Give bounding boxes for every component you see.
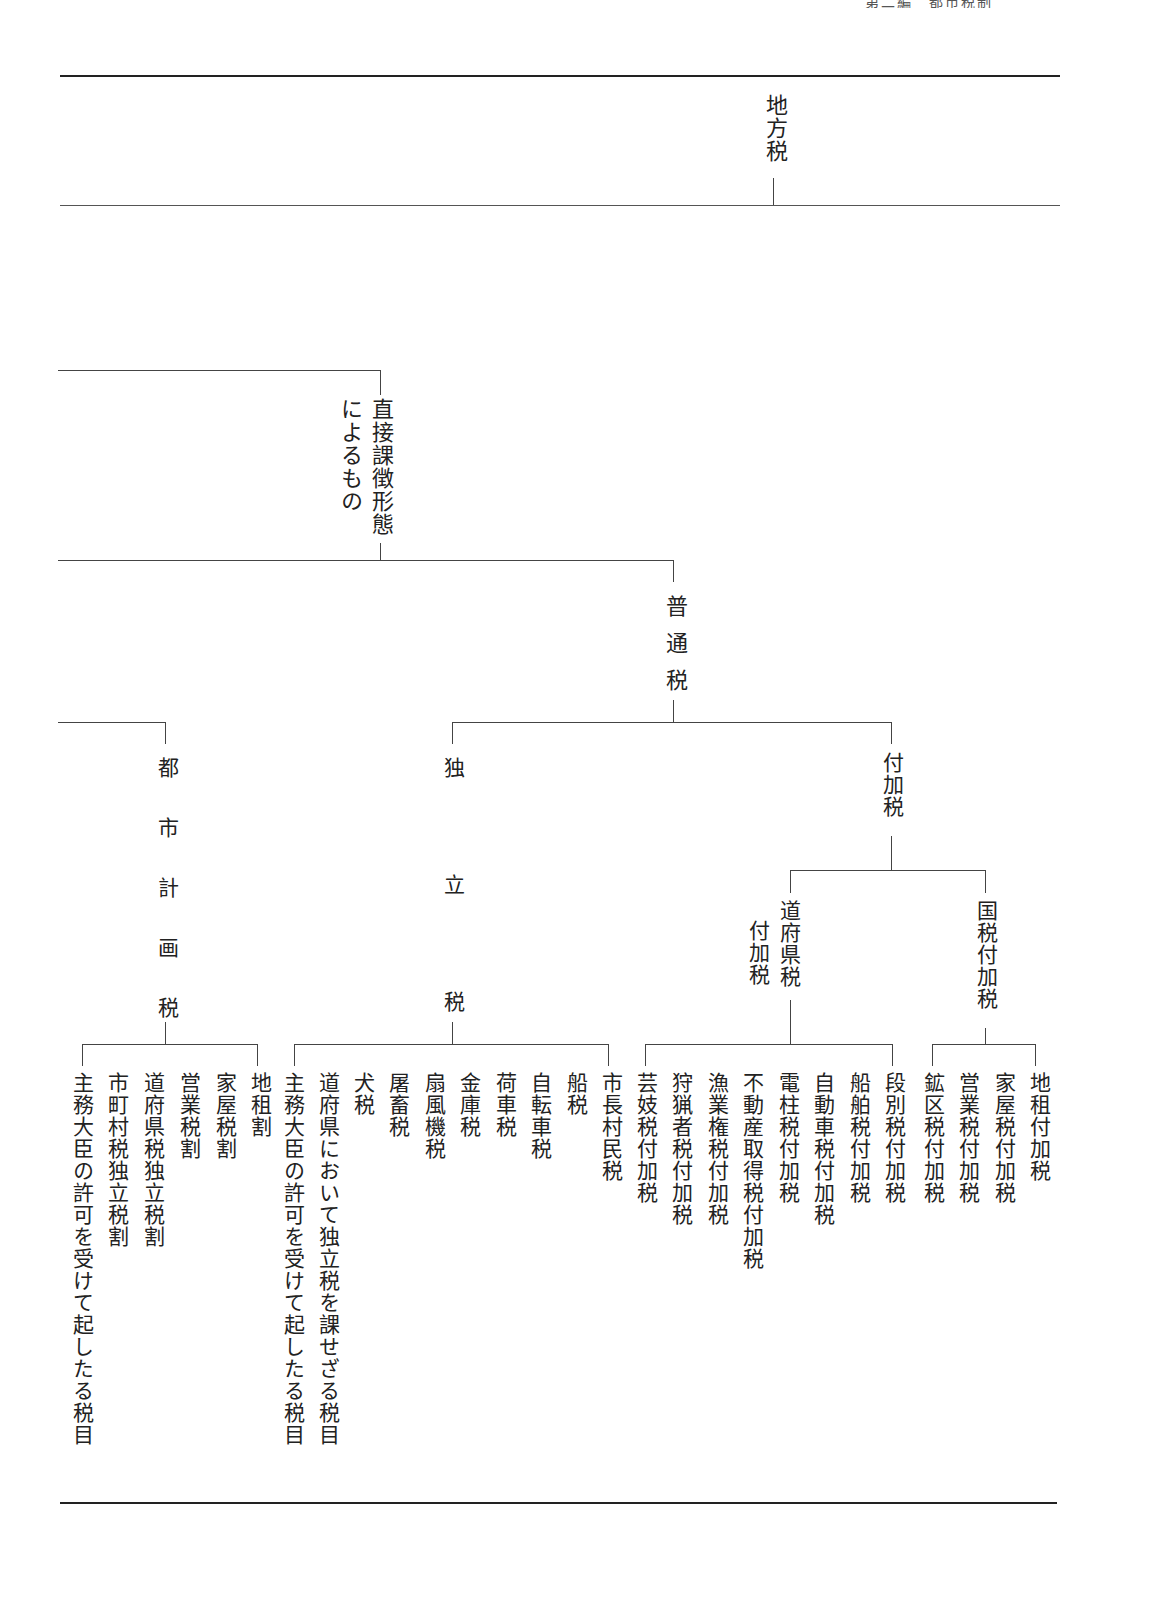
toshi-drop bbox=[165, 722, 166, 744]
toshi-stem bbox=[165, 1022, 166, 1044]
level2-drop bbox=[673, 560, 674, 582]
level1-top-drop bbox=[380, 370, 381, 395]
dofuken-items-drop-right bbox=[892, 1044, 893, 1066]
toshi-items-drop-left bbox=[82, 1044, 83, 1066]
kokuzei-item-koku: 鉱区税付加税 bbox=[916, 1072, 950, 1204]
level1-bottom-stem bbox=[380, 543, 381, 561]
level1-label-main: 直接課徴形態 bbox=[364, 398, 396, 536]
dokuritsu-label: 独立税 bbox=[441, 757, 465, 1108]
dofuken-item-fudosan: 不動産取得税付加税 bbox=[735, 1072, 769, 1270]
toshi-item-eigyozeiwari: 営業税割 bbox=[172, 1072, 206, 1160]
dofuken-items-drop-left bbox=[645, 1044, 646, 1066]
dofuken-item-geigi: 芸妓税付加税 bbox=[629, 1072, 663, 1204]
kokuzei-drop bbox=[985, 870, 986, 893]
kokuzei-label: 国税付加税 bbox=[972, 900, 1000, 1010]
running-header: 第二編 都市税制 bbox=[865, 0, 1075, 8]
level1-label-sub: によるもの bbox=[333, 398, 365, 513]
dokuritsu-item-jitenshazei: 自転車税 bbox=[523, 1072, 557, 1160]
dofuken-item-denchu: 電柱税付加税 bbox=[771, 1072, 805, 1204]
root-baseline bbox=[60, 205, 1060, 206]
dokuritsu-drop bbox=[452, 722, 453, 744]
toshi-item-shumu: 主務大臣の許可を受けて起したる税目 bbox=[65, 1072, 99, 1446]
fukazei-sub-bar bbox=[790, 870, 986, 871]
dofuken-label-main: 道府県税 bbox=[775, 900, 803, 988]
dokuritsu-items-drop-right bbox=[608, 1044, 609, 1066]
level1-top-bar bbox=[58, 370, 380, 371]
dofuken-drop bbox=[790, 870, 791, 893]
fukazei-drop bbox=[891, 722, 892, 744]
toshi-bar bbox=[58, 722, 166, 723]
level1-bottom-bar bbox=[58, 560, 674, 561]
dokuritsu-item-shumu: 主務大臣の許可を受けて起したる税目 bbox=[276, 1072, 310, 1446]
dofuken-item-senpaku: 船舶税付加税 bbox=[842, 1072, 876, 1204]
dofuken-label-sub: 付加税 bbox=[744, 920, 772, 986]
dokuritsu-items-drop-left bbox=[294, 1044, 295, 1066]
dokuritsu-item-senpuki: 扇風機税 bbox=[417, 1072, 451, 1160]
dofuken-item-jidosha: 自動車税付加税 bbox=[806, 1072, 840, 1226]
kokuzei-items-drop-right bbox=[1035, 1044, 1036, 1066]
root-connector bbox=[773, 178, 774, 205]
level2-label: 普通税 bbox=[661, 595, 687, 706]
dokuritsu-item-inuzei: 犬税 bbox=[346, 1072, 380, 1116]
toshi-keikaku-label: 都市計画税 bbox=[155, 757, 179, 1057]
dokuritsu-item-funezei: 船税 bbox=[559, 1072, 593, 1116]
dofuken-items-bar bbox=[645, 1044, 893, 1045]
kokuzei-item-kaoku: 家屋税付加税 bbox=[987, 1072, 1021, 1204]
dokuritsu-item-tochiku: 屠畜税 bbox=[381, 1072, 415, 1138]
kokuzei-items-drop-left bbox=[932, 1044, 933, 1066]
level2-stem bbox=[673, 700, 674, 722]
dofuken-item-shuryo: 狩猟者税付加税 bbox=[664, 1072, 698, 1226]
fukazei-label: 付加税 bbox=[879, 752, 905, 818]
kokuzei-item-eigyo: 営業税付加税 bbox=[951, 1072, 985, 1204]
dofuken-item-danbetsu: 段別税付加税 bbox=[877, 1072, 911, 1204]
kokuzei-stem bbox=[985, 1028, 986, 1045]
root-node-label: 地方税 bbox=[759, 94, 789, 163]
toshi-items-bar bbox=[82, 1044, 258, 1045]
dokuritsu-stem bbox=[452, 1022, 453, 1044]
dofuken-stem bbox=[790, 1000, 791, 1045]
dofuken-item-gyogyoken: 漁業権税付加税 bbox=[700, 1072, 734, 1226]
dokuritsu-item-niguruma: 荷車税 bbox=[488, 1072, 522, 1138]
toshi-item-dofukenzei: 道府県税独立税割 bbox=[136, 1072, 170, 1248]
top-rule bbox=[60, 75, 1060, 77]
dokuritsu-item-dofuken-fuka: 道府県において独立税を課せざる税目 bbox=[311, 1072, 345, 1446]
toshi-item-kaokuzeiwari: 家屋税割 bbox=[208, 1072, 242, 1160]
toshi-item-shichosonzei: 市町村税独立税割 bbox=[100, 1072, 134, 1248]
dokuritsu-item-shichosonminzei: 市長村民税 bbox=[594, 1072, 628, 1182]
dokuritsu-items-bar bbox=[294, 1044, 609, 1045]
toshi-items-drop-right bbox=[257, 1044, 258, 1066]
kokuzei-items-bar bbox=[932, 1044, 1036, 1045]
level2-bar bbox=[452, 722, 892, 723]
dokuritsu-item-kinko: 金庫税 bbox=[452, 1072, 486, 1138]
bottom-rule bbox=[60, 1502, 1057, 1504]
toshi-item-chisowari: 地租割 bbox=[243, 1072, 277, 1138]
kokuzei-item-chiso: 地租付加税 bbox=[1022, 1072, 1056, 1182]
fukazei-stem bbox=[891, 836, 892, 871]
